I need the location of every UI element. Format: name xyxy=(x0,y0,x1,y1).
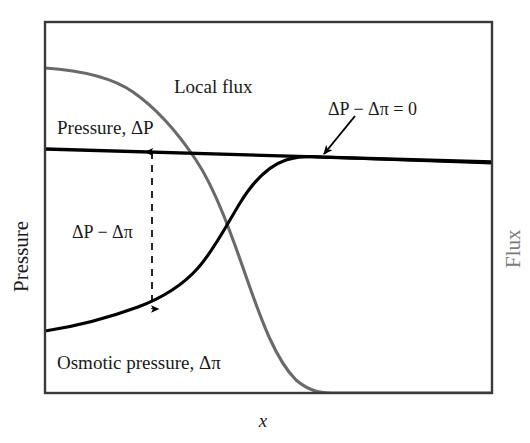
osmotic-curve-label: Osmotic pressure, Δπ xyxy=(57,352,221,373)
pressure-curve-label: Pressure, ΔP xyxy=(57,117,154,138)
pressure-gap-label: ΔP − Δπ xyxy=(72,222,133,242)
x-axis-label: x xyxy=(258,410,268,431)
chart-canvas: Local flux Pressure, ΔP ΔP − Δπ = 0 ΔP −… xyxy=(0,0,530,443)
figure-container: Local flux Pressure, ΔP ΔP − Δπ = 0 ΔP −… xyxy=(0,0,530,443)
zero-point-annotation: ΔP − Δπ = 0 xyxy=(328,99,417,119)
flux-curve-label: Local flux xyxy=(174,76,253,97)
y-axis-label-left: Pressure xyxy=(9,221,33,292)
y-axis-label-right: Flux xyxy=(501,229,525,268)
